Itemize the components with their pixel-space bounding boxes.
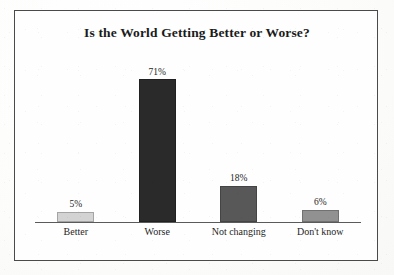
bar-column-worse: 71%: [118, 11, 196, 222]
bar-better[interactable]: [57, 212, 94, 222]
x-tick-label-not-changing: Not changing: [200, 226, 278, 237]
x-tick-label-worse: Worse: [118, 226, 196, 237]
bar-column-not-changing: 18%: [200, 11, 278, 222]
page-background: Is the World Getting Better or Worse? 5%…: [0, 0, 394, 275]
x-axis-line: [35, 222, 361, 223]
bar-value-label: 6%: [314, 198, 327, 208]
bar-column-dont-know: 6%: [281, 11, 359, 222]
bar-worse[interactable]: [139, 79, 176, 222]
bar-value-label: 18%: [230, 174, 247, 184]
bar-value-label: 71%: [149, 68, 166, 78]
bar-value-label: 5%: [69, 200, 82, 210]
bar-not-changing[interactable]: [220, 186, 257, 222]
x-tick-label-dont-know: Don't know: [281, 226, 359, 237]
plot-area: 5% 71% 18% 6% Better: [15, 11, 379, 262]
bar-column-better: 5%: [37, 11, 115, 222]
x-tick-label-better: Better: [37, 226, 115, 237]
x-axis-tick-labels: Better Worse Not changing Don't know: [35, 226, 361, 237]
chart-frame: Is the World Getting Better or Worse? 5%…: [14, 10, 378, 261]
bar-dont-know[interactable]: [302, 210, 339, 222]
bar-group: 5% 71% 18% 6%: [35, 11, 361, 222]
